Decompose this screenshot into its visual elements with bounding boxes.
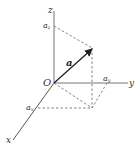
ax-label: ax	[26, 103, 34, 112]
vector-diagram: z y x O a az ay ax	[0, 0, 139, 149]
z-axis-label: z	[47, 5, 53, 15]
y-axis-label: y	[128, 78, 135, 88]
vector-a	[54, 49, 92, 83]
diagram-canvas: z y x O a az ay ax	[0, 0, 139, 149]
az-label: az	[43, 21, 51, 30]
origin-label: O	[43, 77, 51, 88]
vector-label: a	[66, 57, 72, 68]
ay-label: ay	[103, 74, 111, 84]
x-axis-label: x	[6, 135, 11, 145]
